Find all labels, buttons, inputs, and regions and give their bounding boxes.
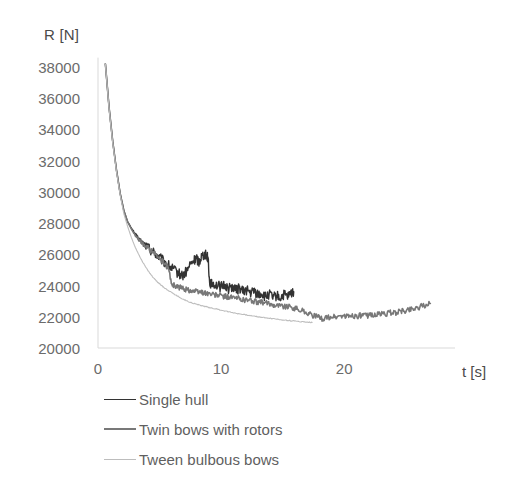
legend-item-label: Twin bows with rotors xyxy=(139,421,282,438)
series-line xyxy=(105,64,293,301)
legend-item-label: Single hull xyxy=(139,391,208,408)
data-series-layer xyxy=(105,64,430,323)
chart-legend: Single hullTwin bows with rotorsTween bu… xyxy=(104,386,434,476)
legend-line-swatch xyxy=(104,459,136,460)
series-line xyxy=(105,64,312,323)
legend-item[interactable]: Tween bulbous bows xyxy=(104,446,434,472)
legend-item-label: Tween bulbous bows xyxy=(139,451,279,468)
chart-container: R [N] 2000022000240002600028000300003200… xyxy=(0,0,525,490)
legend-line-swatch xyxy=(104,428,136,430)
legend-line-swatch xyxy=(104,399,136,400)
series-line xyxy=(105,64,430,321)
legend-item[interactable]: Twin bows with rotors xyxy=(104,416,434,442)
legend-item[interactable]: Single hull xyxy=(104,386,434,412)
